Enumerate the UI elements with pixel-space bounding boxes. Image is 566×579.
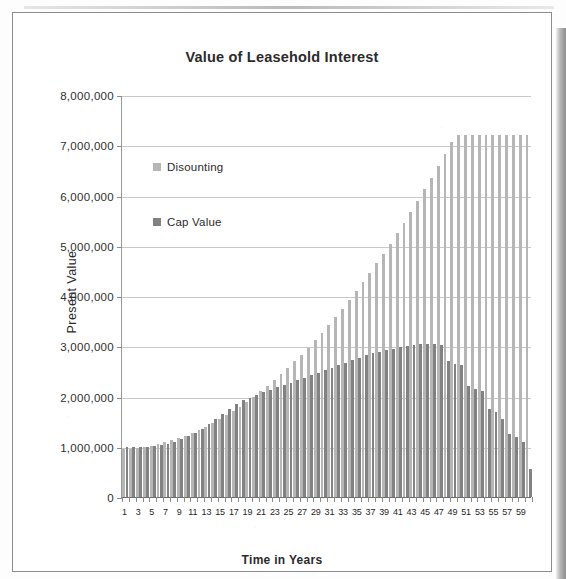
bar-cap-value	[180, 439, 183, 497]
x-tick-label: 45	[420, 507, 430, 517]
bar-cap-value	[385, 350, 388, 497]
bar-cap-value	[153, 446, 156, 497]
x-tick-label: 19	[243, 507, 253, 517]
bar-cap-value	[276, 387, 279, 497]
x-tick-label: 17	[229, 507, 239, 517]
bar-discounting	[526, 135, 529, 497]
bar-cap-value	[317, 373, 320, 497]
bar-cap-value	[187, 436, 190, 497]
x-tick-label: 39	[379, 507, 389, 517]
x-tick-mark	[361, 497, 362, 502]
x-tick-mark	[498, 497, 499, 502]
gridline	[122, 146, 531, 147]
x-tick-mark	[457, 497, 458, 502]
x-tick-mark	[238, 497, 239, 502]
x-tick-label: 55	[489, 507, 499, 517]
bar-cap-value	[173, 442, 176, 497]
x-tick-mark	[170, 497, 171, 502]
x-axis-tick-labels: 1357911131517192123252729313335373941434…	[121, 507, 531, 525]
bar-cap-value	[296, 380, 299, 497]
x-tick-mark	[156, 497, 157, 502]
x-tick-mark	[334, 497, 335, 502]
x-axis-title: Time in Years	[13, 553, 551, 567]
bar-cap-value	[365, 355, 368, 497]
x-tick-mark	[430, 497, 431, 502]
bar-cap-value	[208, 424, 211, 497]
bar-cap-value	[167, 444, 170, 497]
y-tick-label: 4,000,000	[60, 291, 114, 303]
legend-item-discounting: Disounting	[153, 161, 273, 173]
y-tick-label: 2,000,000	[60, 392, 114, 404]
chart-area: Value of Leasehold Interest Present Valu…	[12, 12, 552, 572]
x-tick-label: 13	[202, 507, 212, 517]
bar-cap-value	[290, 383, 293, 497]
y-tick-mark	[117, 448, 122, 449]
bar-cap-value	[454, 364, 457, 497]
x-tick-mark	[518, 497, 519, 502]
bar-cap-value	[515, 437, 518, 497]
bar-cap-value	[440, 345, 443, 497]
x-tick-mark	[300, 497, 301, 502]
bar-cap-value	[242, 400, 245, 497]
x-tick-mark	[307, 497, 308, 502]
x-tick-label: 41	[393, 507, 403, 517]
x-tick-mark	[354, 497, 355, 502]
x-tick-label: 31	[325, 507, 335, 517]
page-edge-shadow-right	[556, 28, 566, 579]
x-tick-mark	[512, 497, 513, 502]
plot-area: 01,000,0002,000,0003,000,0004,000,0005,0…	[121, 96, 531, 498]
x-tick-mark	[525, 497, 526, 502]
chart-legend: Disounting Cap Value	[153, 161, 273, 271]
bar-cap-value	[481, 391, 484, 497]
x-tick-mark	[218, 497, 219, 502]
x-tick-label: 33	[338, 507, 348, 517]
bar-cap-value	[214, 419, 217, 497]
bar-cap-value	[221, 414, 224, 497]
y-tick-label: 6,000,000	[60, 191, 114, 203]
bar-cap-value	[269, 390, 272, 497]
bar-cap-value	[126, 447, 129, 497]
x-tick-label: 47	[434, 507, 444, 517]
bar-cap-value	[351, 360, 354, 497]
bar-cap-value	[460, 365, 463, 497]
bar-cap-value	[303, 378, 306, 497]
x-tick-mark	[532, 497, 533, 502]
x-tick-mark	[211, 497, 212, 502]
bar-cap-value	[283, 385, 286, 497]
x-tick-mark	[259, 497, 260, 502]
x-tick-label: 49	[448, 507, 458, 517]
bar-cap-value	[255, 395, 258, 497]
x-tick-mark	[491, 497, 492, 502]
x-tick-mark	[471, 497, 472, 502]
legend-swatch-cap-value	[153, 218, 161, 226]
x-tick-mark	[149, 497, 150, 502]
bar-cap-value	[331, 368, 334, 497]
x-tick-label: 37	[366, 507, 376, 517]
x-tick-mark	[402, 497, 403, 502]
x-tick-mark	[436, 497, 437, 502]
y-tick-mark	[117, 197, 122, 198]
x-tick-mark	[190, 497, 191, 502]
x-tick-mark	[375, 497, 376, 502]
bar-cap-value	[337, 365, 340, 497]
legend-item-cap-value: Cap Value	[153, 216, 273, 228]
x-tick-label: 7	[163, 507, 168, 517]
y-tick-mark	[117, 96, 122, 97]
y-tick-mark	[117, 146, 122, 147]
bar-cap-value	[228, 409, 231, 497]
bar-cap-value	[399, 347, 402, 497]
y-tick-mark	[117, 297, 122, 298]
x-tick-mark	[395, 497, 396, 502]
x-tick-mark	[143, 497, 144, 502]
x-tick-mark	[368, 497, 369, 502]
bar-cap-value	[262, 392, 265, 497]
x-tick-mark	[272, 497, 273, 502]
y-tick-label: 1,000,000	[60, 442, 114, 454]
bar-cap-value	[426, 344, 429, 497]
legend-label-cap-value: Cap Value	[167, 216, 222, 228]
x-tick-mark	[163, 497, 164, 502]
bar-cap-value	[358, 358, 361, 497]
x-tick-mark	[484, 497, 485, 502]
x-tick-label: 57	[502, 507, 512, 517]
x-tick-mark	[348, 497, 349, 502]
